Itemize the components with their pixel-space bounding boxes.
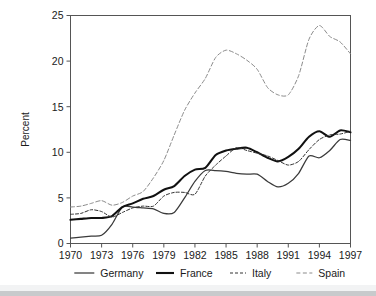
x-tick-label: 1970 (59, 249, 83, 261)
series-line-france (71, 130, 351, 219)
legend-label-spain: Spain (318, 267, 345, 279)
x-tick-label: 1988 (245, 249, 269, 261)
x-axis: 1970197319761979198219851988199119941997 (59, 244, 363, 262)
x-tick-label: 1991 (277, 249, 301, 261)
x-tick-label: 1979 (152, 249, 176, 261)
legend-label-italy: Italy (252, 267, 272, 279)
x-tick-label: 1994 (308, 249, 332, 261)
legend-label-germany: Germany (100, 267, 144, 279)
series-line-germany (71, 139, 351, 238)
legend-label-france: France (180, 267, 213, 279)
x-tick-label: 1982 (183, 249, 207, 261)
series-line-spain (71, 26, 351, 207)
x-tick-label: 1985 (214, 249, 238, 261)
legend: GermanyFranceItalySpain (74, 267, 345, 279)
y-tick-label: 25 (52, 9, 64, 21)
x-tick-label: 1997 (339, 249, 363, 261)
y-axis-title: Percent (20, 112, 31, 147)
line-chart-figure: 0510152025Percent19701973197619791982198… (0, 0, 376, 296)
y-tick-label: 15 (52, 101, 64, 113)
y-tick-label: 10 (52, 146, 64, 158)
plot-frame (71, 16, 351, 244)
series-line-italy (71, 131, 351, 217)
y-tick-label: 20 (52, 55, 64, 67)
y-axis: 0510152025 (52, 9, 71, 249)
y-tick-label: 5 (58, 192, 64, 204)
y-tick-label: 0 (58, 237, 64, 249)
series-group (71, 26, 351, 239)
x-tick-label: 1973 (90, 249, 114, 261)
x-tick-label: 1976 (121, 249, 145, 261)
footer-strip (0, 291, 376, 296)
